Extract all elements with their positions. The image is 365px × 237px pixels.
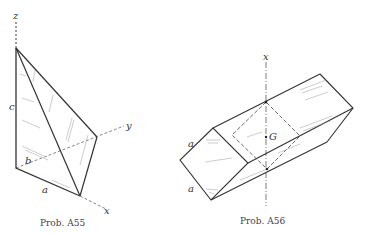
label-b: b (25, 155, 31, 166)
point-bottom (266, 168, 269, 171)
tetra-edge-front (16, 48, 80, 196)
label-x-axis: x (263, 51, 269, 62)
caption-a56: Prob. A56 (240, 216, 285, 226)
label-a-top: a (188, 138, 194, 149)
tetra-edge-right (80, 137, 97, 196)
point-top (265, 101, 268, 104)
y-axis (16, 126, 124, 168)
label-c: c (9, 101, 15, 112)
diagram-canvas: z y x c b a Prob. A55 (0, 0, 365, 237)
tetra-edge-top (16, 48, 97, 137)
prism-edge-bottom (211, 142, 327, 200)
label-g: G (269, 131, 277, 142)
figure-a55: z y x c b a Prob. A55 (9, 10, 132, 228)
label-a-bottom: a (188, 183, 194, 194)
prism-back-face (320, 74, 353, 142)
label-z: z (12, 10, 19, 21)
hatching (20, 70, 88, 188)
figure-a56: x G a a Prob. A56 (180, 51, 353, 226)
caption-a55: Prob. A55 (40, 218, 85, 228)
label-a: a (42, 184, 48, 195)
label-y: y (125, 120, 132, 131)
label-x: x (104, 205, 110, 216)
x-axis (80, 196, 106, 209)
point-g (265, 136, 267, 138)
